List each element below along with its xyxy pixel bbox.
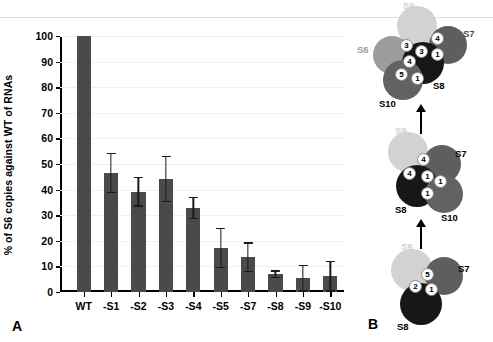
y-tick-label: 90 xyxy=(41,56,53,68)
plot-area: 0102030405060708090100WT-S1-S2-S3-S4-S5-… xyxy=(60,36,344,292)
protein-label-s8: S8 xyxy=(397,321,409,332)
error-bar xyxy=(302,265,303,292)
x-tick-mark xyxy=(111,292,112,297)
diagram-stage-top: S9S6S7S8S103431451 xyxy=(355,0,493,115)
protein-label-s8: S8 xyxy=(395,204,407,215)
arrow-up-upper xyxy=(413,104,429,134)
bar-group[interactable] xyxy=(296,36,310,292)
y-tick-mark xyxy=(56,138,60,139)
y-tick-label: 80 xyxy=(41,81,53,93)
bar-group[interactable] xyxy=(241,36,255,292)
bar[interactable] xyxy=(186,208,200,292)
x-tick-label: -S8 xyxy=(267,300,283,312)
figure-root: % of S6 copies against WT of RNAs 010203… xyxy=(0,0,493,342)
connection-node: 1 xyxy=(421,170,434,183)
y-tick-mark xyxy=(56,87,60,88)
error-bar xyxy=(247,242,248,272)
protein-label-s8: S8 xyxy=(433,80,445,91)
error-bar xyxy=(165,156,166,202)
y-tick-label: 0 xyxy=(47,286,53,298)
bar-group[interactable] xyxy=(268,36,282,292)
x-tick-mark xyxy=(193,292,194,297)
panel-a-bar-chart: % of S6 copies against WT of RNAs 010203… xyxy=(0,0,360,342)
connection-node: 3 xyxy=(400,39,413,52)
bar-group[interactable] xyxy=(186,36,200,292)
protein-label-s9: S9 xyxy=(401,241,413,252)
x-tick-mark xyxy=(303,292,304,297)
x-tick-label: -S4 xyxy=(185,300,201,312)
protein-label-s7: S7 xyxy=(463,28,475,39)
bar-group[interactable] xyxy=(104,36,118,292)
y-tick-label: 70 xyxy=(41,107,53,119)
connection-node: 1 xyxy=(431,48,444,61)
protein-label-s10: S10 xyxy=(379,98,396,109)
protein-label-s9: S9 xyxy=(395,125,407,136)
y-tick-mark xyxy=(56,190,60,191)
x-tick-label: -S9 xyxy=(295,300,311,312)
y-tick-mark xyxy=(56,36,60,37)
x-tick-mark xyxy=(166,292,167,297)
connection-node: 3 xyxy=(415,45,428,58)
bar-group[interactable] xyxy=(323,36,337,292)
y-tick-label: 10 xyxy=(41,260,53,272)
x-tick-label: -S2 xyxy=(130,300,146,312)
connection-node: 4 xyxy=(403,55,416,68)
x-tick-mark xyxy=(330,292,331,297)
error-bar xyxy=(330,261,331,292)
bar[interactable] xyxy=(77,36,91,292)
y-tick-label: 60 xyxy=(41,132,53,144)
connection-node: 4 xyxy=(431,32,444,45)
panel-b-assembly-diagrams: S9S6S7S8S103431451 S9S7S8S1044111 S9S7S8… xyxy=(355,0,493,342)
connection-node: 1 xyxy=(411,72,424,85)
x-tick-label: -S5 xyxy=(213,300,229,312)
error-bar xyxy=(275,270,276,278)
x-tick-mark xyxy=(139,292,140,297)
connection-node: 1 xyxy=(425,283,438,296)
diagram-stage-middle: S9S7S8S1044111 xyxy=(355,120,493,230)
protein-label-s7: S7 xyxy=(458,263,470,274)
x-tick-mark xyxy=(221,292,222,297)
y-tick-mark xyxy=(56,266,60,267)
connection-node: 1 xyxy=(434,175,447,188)
connection-node: 4 xyxy=(403,167,416,180)
x-tick-label: -S3 xyxy=(158,300,174,312)
x-tick-label: -S7 xyxy=(240,300,256,312)
x-tick-mark xyxy=(276,292,277,297)
error-bar xyxy=(110,153,111,194)
connection-node: 1 xyxy=(421,187,434,200)
y-tick-label: 30 xyxy=(41,209,53,221)
x-tick-label: WT xyxy=(76,300,92,312)
x-tick-label: -S10 xyxy=(319,300,341,312)
y-tick-mark xyxy=(56,292,60,293)
x-tick-mark xyxy=(84,292,85,297)
y-tick-mark xyxy=(56,113,60,114)
y-tick-label: 40 xyxy=(41,184,53,196)
y-tick-mark xyxy=(56,241,60,242)
protein-label-s7: S7 xyxy=(455,148,467,159)
protein-label-s9: S9 xyxy=(403,0,415,11)
bar-group[interactable] xyxy=(159,36,173,292)
arrow-up-lower xyxy=(413,219,429,249)
x-tick-label: -S1 xyxy=(103,300,119,312)
panel-letter-b: B xyxy=(368,316,378,332)
connection-node: 4 xyxy=(417,153,430,166)
error-bar xyxy=(193,197,194,220)
connection-node: 5 xyxy=(421,268,434,281)
bar-group[interactable] xyxy=(77,36,91,292)
bar-group[interactable] xyxy=(131,36,145,292)
error-bar xyxy=(138,177,139,207)
y-tick-mark xyxy=(56,62,60,63)
bar[interactable] xyxy=(131,192,145,292)
panel-letter-a: A xyxy=(12,318,22,334)
bar-group[interactable] xyxy=(214,36,228,292)
y-tick-label: 20 xyxy=(41,235,53,247)
protein-label-s6: S6 xyxy=(357,44,369,55)
y-tick-label: 100 xyxy=(35,30,53,42)
x-tick-mark xyxy=(248,292,249,297)
connection-node: 2 xyxy=(409,280,422,293)
connection-node: 5 xyxy=(395,68,408,81)
protein-label-s10: S10 xyxy=(441,212,458,223)
y-axis-title: % of S6 copies against WT of RNAs xyxy=(2,40,14,290)
y-tick-label: 50 xyxy=(41,158,53,170)
y-tick-mark xyxy=(56,215,60,216)
